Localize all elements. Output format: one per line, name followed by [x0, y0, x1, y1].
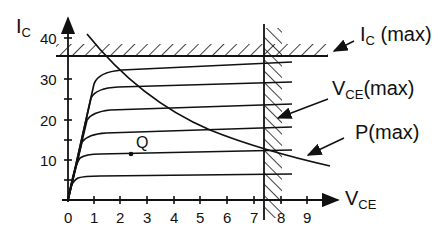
p-max-label: P(max) — [355, 122, 419, 142]
q-point-marker — [129, 152, 134, 157]
q-point-label: Q — [136, 135, 148, 151]
x-tick-6: 6 — [223, 210, 231, 225]
y-tick-30: 30 — [40, 72, 57, 87]
x-tick-8: 8 — [277, 210, 285, 225]
p-max-arrow — [308, 138, 344, 155]
vce-max-label: VCE(max) — [332, 78, 415, 101]
x-tick-7: 7 — [250, 210, 258, 225]
vce-max-arrow — [278, 99, 328, 118]
x-tick-1: 1 — [90, 210, 98, 225]
x-tick-4: 4 — [170, 210, 178, 225]
ic-max-label: IC (max) — [360, 24, 432, 47]
y-axis-label: IC — [16, 16, 31, 39]
y-tick-40: 40 — [40, 31, 57, 46]
collector-curves — [68, 62, 292, 200]
x-axis-label: VCE — [345, 188, 376, 211]
x-tick-2: 2 — [116, 210, 124, 225]
x-tick-9: 9 — [303, 210, 311, 225]
vce-max-limit — [264, 24, 282, 220]
y-tick-20: 20 — [40, 113, 57, 128]
x-tick-0: 0 — [64, 210, 72, 225]
ic-max-arrow — [334, 41, 354, 51]
y-tick-10: 10 — [40, 153, 57, 168]
x-tick-3: 3 — [143, 210, 151, 225]
x-tick-5: 5 — [196, 210, 204, 225]
transistor-characteristic-diagram: IC 40 30 20 10 0 1 2 3 4 5 6 7 8 9 VCE I… — [0, 0, 448, 236]
